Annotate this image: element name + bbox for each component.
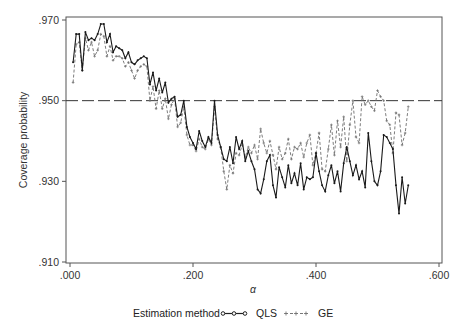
y-tick-label: .910 xyxy=(39,256,60,268)
qls-marker xyxy=(275,196,277,198)
legend-label-qls: QLS xyxy=(256,307,277,319)
x-tick-label: .400 xyxy=(306,269,327,281)
qls-marker xyxy=(201,140,203,142)
qls-marker xyxy=(315,152,317,154)
legend-item-ge: GE xyxy=(284,307,333,319)
qls-marker xyxy=(370,160,372,162)
qls-marker xyxy=(367,132,369,134)
qls-marker xyxy=(300,162,302,164)
qls-marker xyxy=(340,190,342,192)
qls-marker xyxy=(167,102,169,104)
qls-marker xyxy=(355,164,357,166)
qls-marker xyxy=(254,168,256,170)
qls-marker xyxy=(106,41,108,43)
y-tick-label: .950 xyxy=(39,94,60,106)
qls-marker xyxy=(124,57,126,59)
qls-marker xyxy=(158,77,160,79)
qls-marker xyxy=(257,188,259,190)
qls-marker xyxy=(263,178,265,180)
qls-marker xyxy=(220,146,222,148)
qls-marker xyxy=(137,59,139,61)
qls-marker xyxy=(309,178,311,180)
qls-marker xyxy=(112,51,114,53)
qls-marker xyxy=(318,170,320,172)
qls-marker xyxy=(235,136,237,138)
qls-marker xyxy=(198,130,200,132)
qls-marker xyxy=(287,164,289,166)
qls-marker xyxy=(232,162,234,164)
qls-marker xyxy=(223,158,225,160)
qls-marker xyxy=(373,180,375,182)
qls-marker xyxy=(226,160,228,162)
qls-marker xyxy=(352,174,354,176)
x-tick-label: .200 xyxy=(183,269,204,281)
qls-marker xyxy=(149,84,151,86)
x-axis-title: α xyxy=(250,283,257,295)
qls-marker xyxy=(269,154,271,156)
qls-marker xyxy=(306,176,308,178)
qls-marker xyxy=(358,178,360,180)
qls-marker xyxy=(192,142,194,144)
y-axis-title: Coverage probability xyxy=(17,91,29,188)
y-tick-label: .970 xyxy=(39,14,60,26)
qls-marker xyxy=(244,160,246,162)
qls-marker xyxy=(94,39,96,41)
qls-marker xyxy=(303,188,305,190)
qls-marker xyxy=(337,170,339,172)
qls-marker xyxy=(210,142,212,144)
qls-marker xyxy=(284,186,286,188)
qls-marker xyxy=(81,69,83,71)
qls-marker xyxy=(204,146,206,148)
qls-marker xyxy=(229,146,231,148)
qls-marker xyxy=(383,134,385,136)
qls-marker xyxy=(118,47,120,49)
qls-marker xyxy=(241,140,243,142)
qls-marker xyxy=(109,33,111,35)
qls-marker xyxy=(290,182,292,184)
qls-marker xyxy=(392,148,394,150)
qls-marker xyxy=(361,170,363,172)
qls-marker xyxy=(377,184,379,186)
qls-marker xyxy=(161,92,163,94)
x-tick-label: .000 xyxy=(60,269,81,281)
qls-marker xyxy=(84,31,86,33)
qls-marker xyxy=(186,126,188,128)
qls-marker xyxy=(72,61,74,63)
qls-marker xyxy=(143,55,145,57)
qls-marker xyxy=(380,170,382,172)
qls-marker xyxy=(180,114,182,116)
qls-marker xyxy=(389,142,391,144)
qls-marker xyxy=(146,57,148,59)
qls-marker xyxy=(75,33,77,35)
qls-marker xyxy=(404,203,406,205)
qls-marker xyxy=(266,160,268,162)
qls-marker xyxy=(78,33,80,35)
qls-marker xyxy=(170,98,172,100)
qls-marker xyxy=(177,116,179,118)
legend: Estimation method QLS GE xyxy=(133,307,333,319)
coverage-chart: .910.930.950.970 .000.200.400.600 Covera… xyxy=(0,0,470,330)
qls-marker xyxy=(164,82,166,84)
qls-marker xyxy=(343,162,345,164)
qls-marker xyxy=(247,150,249,152)
qls-marker xyxy=(346,146,348,148)
qls-marker xyxy=(100,23,102,25)
legend-item-qls: QLS xyxy=(221,307,277,319)
qls-marker xyxy=(297,184,299,186)
legend-title: Estimation method xyxy=(133,307,220,319)
qls-marker xyxy=(349,160,351,162)
qls-marker xyxy=(238,148,240,150)
qls-marker xyxy=(333,182,335,184)
qls-marker xyxy=(278,166,280,168)
qls-marker xyxy=(207,136,209,138)
qls-marker xyxy=(91,37,93,39)
qls-marker xyxy=(131,61,133,63)
qls-marker xyxy=(395,184,397,186)
y-tick-label: .930 xyxy=(39,175,60,187)
qls-marker xyxy=(364,186,366,188)
qls-marker xyxy=(281,176,283,178)
qls-marker xyxy=(183,100,185,102)
qls-marker xyxy=(217,134,219,136)
qls-marker xyxy=(260,192,262,194)
qls-marker xyxy=(321,184,323,186)
